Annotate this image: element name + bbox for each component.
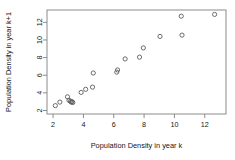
x-axis-title: Population Density in year k [91, 141, 183, 150]
data-point [91, 71, 95, 75]
x-axis-tick-label: 8 [142, 120, 146, 129]
data-point [213, 12, 217, 16]
x-axis-tick-label: 10 [170, 120, 178, 129]
chart-canvas: 2468101224681012Population Density in ye… [0, 0, 235, 160]
x-axis-tick-label: 4 [81, 120, 85, 129]
x-axis-tick-label: 2 [51, 120, 55, 129]
plot-frame [47, 10, 226, 114]
data-point [53, 104, 57, 108]
data-point [158, 34, 162, 38]
y-axis-tick-label: 4 [35, 91, 44, 95]
x-axis-tick-label: 6 [112, 120, 116, 129]
y-axis-tick-label: 2 [35, 108, 44, 112]
data-point [79, 90, 83, 94]
y-axis-tick-label: 10 [35, 36, 44, 44]
data-point [58, 100, 62, 104]
scatter-plot-figure: 2468101224681012Population Density in ye… [0, 0, 235, 160]
data-point [123, 57, 127, 61]
data-point [141, 46, 145, 50]
x-axis-tick-label: 12 [201, 120, 209, 129]
y-axis-tick-label: 12 [35, 18, 44, 26]
data-point [137, 55, 141, 59]
data-point [180, 33, 184, 37]
data-point [90, 85, 94, 89]
data-point [84, 87, 88, 91]
y-axis-title: Population Density in year k+1 [4, 12, 13, 112]
y-axis-tick-label: 6 [35, 73, 44, 77]
data-point [179, 14, 183, 18]
y-axis-tick-label: 8 [35, 56, 44, 60]
